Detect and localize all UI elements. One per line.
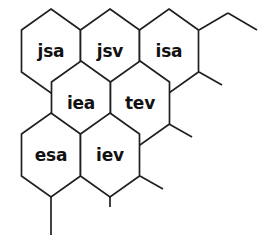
stub-top-right-diagonal — [199, 13, 228, 30]
stub-top-right-horizontal — [228, 13, 257, 30]
stub-right-middle — [169, 124, 192, 137]
cell-tev-label: tev — [125, 93, 155, 113]
stub-right-lower — [140, 176, 163, 189]
cell-iea-label: iea — [67, 93, 95, 113]
diagram-canvas: jsajsvisaieatevesaiev — [0, 0, 277, 247]
stub-right-upper — [199, 72, 222, 85]
hex-cell-layer: jsajsvisaieatevesaiev — [22, 9, 199, 197]
cell-jsa-label: jsa — [37, 41, 65, 61]
cell-iev-label: iev — [96, 145, 124, 165]
cell-esa-label: esa — [35, 145, 68, 165]
cell-jsv-label: jsv — [96, 41, 124, 61]
honeycomb-diagram: jsajsvisaieatevesaiev — [0, 0, 277, 247]
cell-isa-label: isa — [156, 41, 183, 61]
